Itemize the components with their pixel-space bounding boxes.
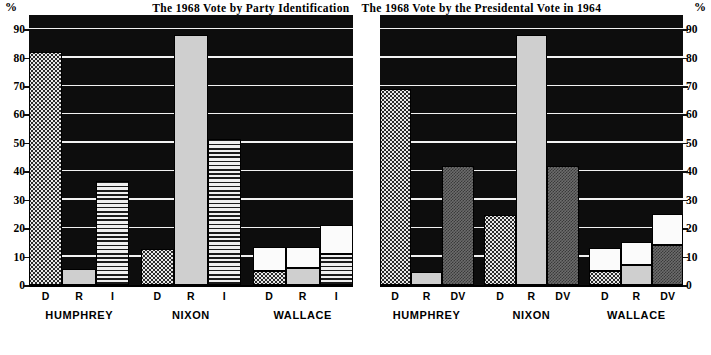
x-axis-line-right — [380, 285, 684, 287]
figure-two-panel-bar-charts: % The 1968 Vote by Party Identification … — [0, 0, 711, 355]
category-label-nixon-r: R — [516, 289, 547, 304]
y-tick-label-70: 70 — [3, 80, 25, 92]
category-label-humphrey-d: D — [380, 289, 411, 304]
bar-segment-base — [253, 271, 286, 285]
category-label-humphrey-d: D — [29, 289, 62, 304]
y-tick-label-20: 20 — [3, 222, 25, 234]
bar-segment-top — [320, 225, 353, 253]
bar-humphrey-r — [62, 269, 95, 285]
y-tick-mark-30 — [24, 200, 29, 202]
y-tick-mark-0 — [683, 285, 688, 287]
category-label-humphrey-dv: DV — [442, 289, 473, 304]
bar-segment-base — [174, 35, 207, 285]
y-tick-label-40: 40 — [686, 165, 708, 177]
chart-title-left: The 1968 Vote by Party Identification — [152, 1, 349, 15]
group-labels-right: HUMPHREYNIXONWALLACE — [380, 307, 684, 323]
y-tick-mark-60 — [683, 114, 688, 116]
group-label-nixon: NIXON — [484, 307, 578, 323]
y-tick-label-10: 10 — [3, 251, 25, 263]
y-tick-mark-40 — [683, 171, 688, 173]
y-tick-label-50: 50 — [686, 137, 708, 149]
y-tick-mark-60 — [24, 114, 29, 116]
bar-nixon-r — [516, 35, 547, 285]
plot-area-right — [380, 15, 684, 285]
bar-wallace-i — [320, 225, 353, 285]
chart-title-right: The 1968 Vote by the Presidental Vote in… — [362, 1, 602, 15]
bar-segment-base — [484, 215, 515, 285]
group-label-humphrey: HUMPHREY — [29, 307, 129, 323]
bar-segment-base — [442, 166, 473, 285]
y-tick-label-30: 30 — [686, 194, 708, 206]
category-label-wallace-d: D — [589, 289, 620, 304]
bar-segment-base — [621, 265, 652, 285]
category-labels-right: DRDVDRDVDRDV — [380, 289, 684, 304]
y-tick-mark-40 — [24, 171, 29, 173]
y-axis-unit-label-left: % — [5, 0, 17, 15]
category-label-wallace-dv: DV — [652, 289, 683, 304]
group-label-nixon: NIXON — [141, 307, 241, 323]
bar-segment-base — [547, 166, 578, 285]
bar-segment-base — [411, 272, 442, 285]
bar-wallace-r — [621, 242, 652, 285]
y-axis-unit-label-right: % — [694, 0, 706, 15]
y-tick-label-50: 50 — [3, 137, 25, 149]
y-tick-label-70: 70 — [686, 80, 708, 92]
category-label-nixon-d: D — [141, 289, 174, 304]
y-tick-mark-30 — [683, 200, 688, 202]
y-tick-label-40: 40 — [3, 165, 25, 177]
bar-nixon-dv — [547, 166, 578, 285]
category-label-wallace-i: I — [320, 289, 353, 304]
bar-nixon-d — [141, 249, 174, 285]
y-tick-mark-10 — [683, 257, 688, 259]
y-tick-mark-80 — [683, 58, 688, 60]
category-label-wallace-d: D — [253, 289, 286, 304]
group-label-humphrey: HUMPHREY — [380, 307, 474, 323]
bar-segment-base — [286, 268, 319, 285]
plot-area-left — [29, 15, 353, 285]
chart-panel-presidential-vote-1964: % The 1968 Vote by the Presidental Vote … — [356, 0, 711, 355]
bar-segment-base — [589, 271, 620, 285]
category-label-nixon-r: R — [174, 289, 207, 304]
category-label-wallace-r: R — [621, 289, 652, 304]
y-tick-mark-50 — [24, 143, 29, 145]
bar-segment-base — [62, 269, 95, 285]
bar-segment-base — [208, 139, 241, 285]
y-tick-mark-20 — [24, 228, 29, 230]
y-tick-label-60: 60 — [686, 108, 708, 120]
bar-segment-base — [516, 35, 547, 285]
y-tick-mark-90 — [683, 29, 688, 31]
bar-segment-top — [589, 248, 620, 271]
y-tick-mark-90 — [24, 29, 29, 31]
bar-segment-top — [652, 214, 683, 245]
y-tick-label-0: 0 — [3, 279, 25, 291]
y-tick-label-20: 20 — [686, 222, 708, 234]
bar-nixon-i — [208, 139, 241, 285]
bar-humphrey-d — [29, 52, 62, 285]
y-tick-mark-20 — [683, 228, 688, 230]
bar-wallace-dv — [652, 214, 683, 285]
bar-segment-base — [141, 249, 174, 285]
group-label-wallace: WALLACE — [589, 307, 683, 323]
y-tick-label-60: 60 — [3, 108, 25, 120]
y-tick-label-90: 90 — [3, 23, 25, 35]
bar-wallace-r — [286, 247, 319, 285]
bar-segment-top — [621, 242, 652, 265]
y-tick-label-0: 0 — [686, 279, 708, 291]
bar-humphrey-dv — [442, 166, 473, 285]
category-labels-left: DRIDRIDRI — [29, 289, 353, 304]
x-axis-line-left — [29, 285, 353, 287]
y-tick-label-90: 90 — [686, 23, 708, 35]
category-label-humphrey-r: R — [62, 289, 95, 304]
bar-segment-top — [253, 247, 286, 271]
bar-segment-base — [652, 245, 683, 285]
bar-segment-top — [286, 247, 319, 268]
bar-segment-base — [320, 254, 353, 285]
group-labels-left: HUMPHREYNIXONWALLACE — [29, 307, 353, 323]
bar-wallace-d — [253, 247, 286, 285]
y-tick-mark-70 — [683, 86, 688, 88]
y-tick-mark-70 — [24, 86, 29, 88]
bar-wallace-d — [589, 248, 620, 285]
bars-right — [380, 15, 684, 285]
category-label-nixon-i: I — [208, 289, 241, 304]
group-label-wallace: WALLACE — [253, 307, 353, 323]
